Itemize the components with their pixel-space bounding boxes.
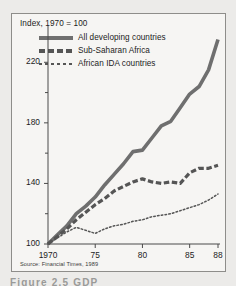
- series-line: [48, 40, 218, 244]
- y-axis-tick-label: 220: [18, 56, 40, 66]
- series-line: [48, 165, 218, 244]
- figure-caption: Figure 2.5 GDP: [10, 277, 99, 286]
- y-axis-tick-label: 140: [18, 177, 40, 187]
- data-series-group: [48, 40, 218, 244]
- x-axis-tick-label: 75: [91, 250, 100, 260]
- y-axis-tick-label: 180: [18, 117, 40, 127]
- plot-area: 100140180220 197075808588: [12, 14, 227, 273]
- source-note: Source: Financial Times, 1989: [20, 261, 98, 267]
- x-axis-tick-label: 80: [138, 250, 147, 260]
- x-axis-tick-label: 88: [213, 250, 222, 260]
- x-axis-tick-label: 1970: [39, 250, 58, 260]
- figure-frame: Index, 1970 = 100 All developing countri…: [11, 13, 226, 272]
- y-axis-tick-label: 100: [18, 238, 40, 248]
- axis-lines: [44, 26, 220, 248]
- chart-canvas: [12, 14, 227, 273]
- x-axis-tick-label: 85: [185, 250, 194, 260]
